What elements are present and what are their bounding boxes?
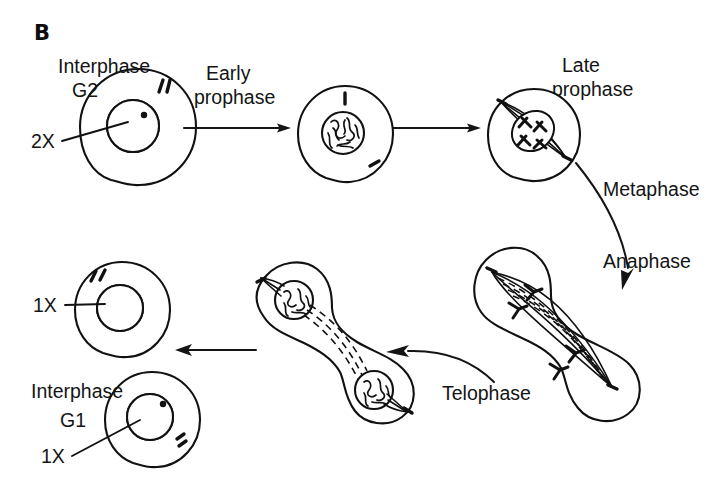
- label-telophase: Telophase: [442, 382, 531, 404]
- label-ploidy-1x-bottom: 1X: [41, 445, 65, 467]
- label-anaphase: Anaphase: [603, 250, 691, 272]
- label-ploidy-1x-top: 1X: [33, 294, 57, 316]
- stage-late-prophase: [488, 89, 580, 181]
- nucleolus-g1: [160, 401, 166, 407]
- stage-early-prophase: [298, 86, 393, 182]
- label-ploidy-2x: 2X: [31, 130, 55, 152]
- nucleus-g1-rim: [127, 394, 173, 440]
- label-interphase-g2-sub: G2: [72, 79, 98, 101]
- label-metaphase: Metaphase: [603, 178, 699, 200]
- label-interphase-g1: Interphase: [31, 380, 123, 402]
- label-interphase-g2: Interphase: [58, 55, 150, 77]
- mitosis-figure: B Interphase G2 2X Early: [0, 0, 714, 480]
- panel-letter-b: B: [34, 21, 50, 45]
- label-late-prophase-line2: prophase: [552, 78, 633, 100]
- label-interphase-g1-sub: G1: [60, 409, 86, 431]
- leader-line-1x-top: [65, 304, 105, 305]
- label-late-prophase-line1: Late: [562, 54, 600, 76]
- nucleolus-g2: [141, 112, 147, 118]
- label-early-prophase-line1: Early: [206, 62, 251, 84]
- label-early-prophase-line2: prophase: [194, 86, 275, 108]
- nucleus-daughter-top-rim: [97, 285, 143, 331]
- mitosis-diagram-canvas: B Interphase G2 2X Early: [0, 0, 714, 480]
